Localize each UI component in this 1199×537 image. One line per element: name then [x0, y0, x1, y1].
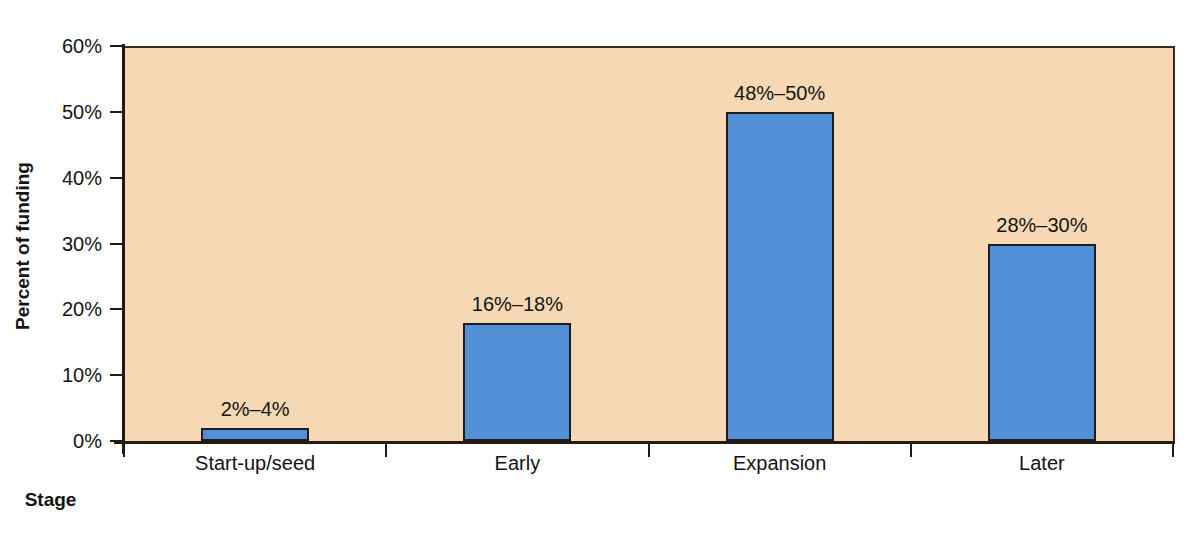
- y-axis-tick-label: 0%: [30, 430, 102, 453]
- y-axis-tick-label: 60%: [30, 35, 102, 58]
- y-axis-tick: [110, 374, 123, 376]
- y-axis-tick: [110, 308, 123, 310]
- x-axis-title: Stage: [0, 489, 1199, 511]
- x-axis-category-label: Early: [495, 452, 541, 475]
- y-axis-tick-label: 40%: [30, 166, 102, 189]
- bar-value-label: 2%–4%: [221, 398, 290, 421]
- y-axis-tick: [110, 177, 123, 179]
- y-axis-tick: [110, 111, 123, 113]
- x-axis-title-label: Stage: [25, 489, 77, 510]
- x-axis-tick: [385, 443, 387, 457]
- y-axis-tick: [110, 45, 123, 47]
- bar-value-label: 28%–30%: [996, 214, 1087, 237]
- bar-value-label: 16%–18%: [472, 293, 563, 316]
- y-axis-tick-label: 10%: [30, 364, 102, 387]
- y-axis-tick: [110, 440, 123, 442]
- x-axis-tick: [648, 443, 650, 457]
- x-axis-tick: [1172, 443, 1174, 457]
- bar[interactable]: [988, 244, 1096, 442]
- x-axis-category-label: Start-up/seed: [195, 452, 315, 475]
- y-axis-tick-label: 50%: [30, 100, 102, 123]
- x-axis-tick: [910, 443, 912, 457]
- x-axis-tick: [123, 443, 125, 457]
- bar[interactable]: [726, 112, 834, 441]
- y-axis-tick-label: 20%: [30, 298, 102, 321]
- y-axis-tick: [110, 243, 123, 245]
- bar[interactable]: [463, 323, 571, 442]
- y-axis-line: [122, 44, 125, 454]
- bar-value-label: 48%–50%: [734, 82, 825, 105]
- x-axis-line: [114, 441, 1175, 444]
- x-axis-category-label: Later: [1019, 452, 1065, 475]
- bar[interactable]: [201, 428, 309, 441]
- chart-figure: Percent of funding 0%10%20%30%40%50%60%2…: [0, 0, 1199, 537]
- x-axis-category-label: Expansion: [733, 452, 826, 475]
- y-axis-tick-label: 30%: [30, 232, 102, 255]
